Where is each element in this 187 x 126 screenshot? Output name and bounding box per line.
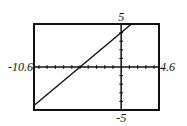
- ymax-label: 5: [118, 10, 124, 24]
- ymin-label: -5: [116, 111, 126, 125]
- xmax-label: 4.6: [160, 60, 175, 74]
- xmin-label: -10.6: [8, 60, 33, 74]
- line-series: [34, 24, 131, 106]
- calculator-graph: -10.6 4.6 5 -5: [0, 0, 187, 126]
